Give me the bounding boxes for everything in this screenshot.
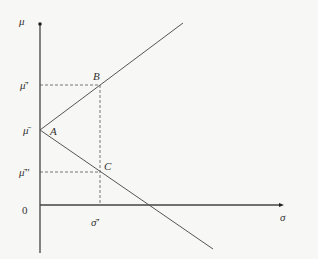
upper-line (40, 23, 183, 130)
tick-mu-bar: μ̄ (22, 124, 32, 136)
mean-sd-diagram: μ σ 0 μ̄' μ̄ μ̄'' σ̄' A B C (0, 0, 318, 259)
y-axis-label: μ (18, 15, 25, 27)
point-c-label: C (104, 160, 112, 172)
x-axis-label: σ (280, 211, 286, 223)
tick-mu-bar-prime: μ̄' (19, 79, 29, 91)
x-axis-arrow-icon (279, 203, 284, 207)
lower-line (40, 130, 213, 249)
point-a-label: A (49, 125, 57, 137)
point-b-label: B (93, 70, 100, 82)
tick-sigma-bar-prime: σ̄' (91, 216, 99, 228)
tick-mu-bar-double-prime: μ̄'' (18, 166, 30, 178)
y-axis-arrow-icon (38, 22, 42, 26)
origin-label: 0 (22, 204, 28, 216)
